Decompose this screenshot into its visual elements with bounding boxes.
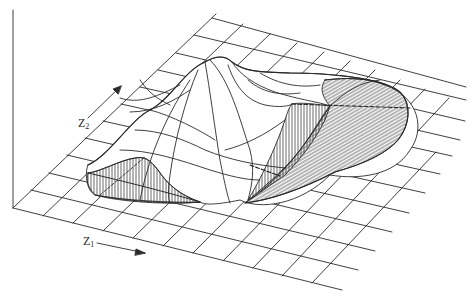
figure-canvas	[0, 0, 474, 301]
z2-axis-label: Z2	[78, 117, 89, 131]
z2-subscript: 2	[85, 122, 89, 131]
z1-subscript: 1	[90, 240, 94, 249]
z1-axis-label: Z1	[83, 235, 94, 249]
density-surface-figure: Z2 Z1	[0, 0, 474, 301]
z1-arrow-head	[135, 249, 145, 255]
